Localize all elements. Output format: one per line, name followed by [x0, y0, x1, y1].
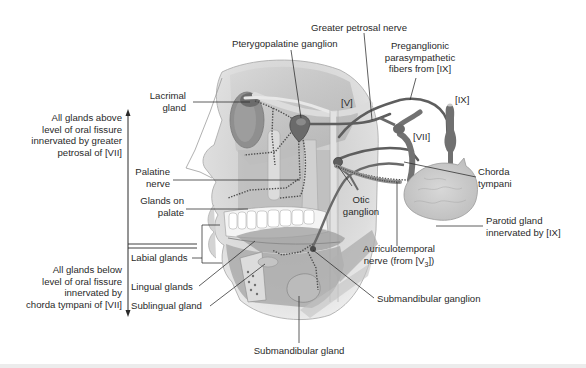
label-chorda-tympani: Chorda tympani	[478, 166, 512, 189]
glossopharyngeal-nerve	[444, 103, 456, 165]
label-submandibular-gland: Submandibular gland	[239, 345, 359, 357]
label-line: innervated by [IX]	[486, 227, 561, 239]
anatomy-figure: All glands above level of oral fissure i…	[0, 0, 586, 368]
label-line: palate	[118, 207, 184, 219]
facial-nerve	[380, 112, 420, 180]
label-line: nerve (from [V3])	[351, 255, 447, 267]
label-lacrimal-gland: Lacrimal gland	[130, 90, 186, 113]
label-text: nerve (from [V	[364, 255, 425, 266]
annotation-line: All glands below	[4, 264, 122, 276]
label-parotid-gland: Parotid gland innervated by [IX]	[486, 215, 561, 238]
label-labial-glands: Labial glands	[131, 252, 188, 264]
label-greater-petrosal-nerve: Greater petrosal nerve	[311, 22, 407, 34]
label-pterygopalatine-ganglion: Pterygopalatine ganglion	[232, 38, 338, 50]
label-line: fibers from [IX]	[375, 63, 465, 75]
label-lingual-glands: Lingual glands	[131, 281, 193, 293]
label-otic-ganglion: Otic ganglion	[336, 194, 386, 217]
annotation-line: innervated by	[4, 287, 122, 299]
label-line: Otic	[336, 194, 386, 206]
label-line: gland	[130, 102, 186, 114]
label-line: Lacrimal	[130, 90, 186, 102]
label-preganglionic-fibers: Preganglionic parasympathetic fibers fro…	[375, 40, 465, 75]
label-cn-ix: [IX]	[455, 94, 469, 106]
arrow-down-icon	[126, 310, 131, 317]
label-palatine-nerve: Palatine nerve	[110, 166, 170, 189]
label-line: ganglion	[336, 206, 386, 218]
annotation-line: All glands above	[14, 112, 122, 124]
glands-above-annotation: All glands above level of oral fissure i…	[14, 112, 122, 158]
label-glands-on-palate: Glands on palate	[118, 195, 184, 218]
label-cn-v: [V]	[341, 97, 353, 109]
annotation-line: innervated by greater	[14, 135, 122, 147]
label-line: tympani	[478, 178, 512, 190]
label-text: ])	[428, 255, 434, 266]
label-line: Chorda	[478, 166, 512, 178]
annotation-line: level of oral fissure	[14, 124, 122, 136]
label-line: Glands on	[118, 195, 184, 207]
annotation-line: petrosal of [VII]	[14, 147, 122, 159]
label-line: Auriculotemporal	[351, 243, 447, 255]
annotation-line: chorda tympani of [VII]	[4, 299, 122, 311]
label-submandibular-ganglion: Submandibular ganglion	[377, 293, 480, 305]
label-sublingual-gland: Sublingual gland	[131, 300, 202, 312]
label-auriculotemporal-nerve: Auriculotemporal nerve (from [V3])	[351, 243, 447, 266]
label-cn-vii: [VII]	[413, 131, 430, 143]
label-line: nerve	[110, 178, 170, 190]
label-line: parasympathetic	[375, 52, 465, 64]
submandibular-ganglion-shape	[310, 246, 316, 252]
label-line: Parotid gland	[486, 215, 561, 227]
label-line: Preganglionic	[375, 40, 465, 52]
annotation-line: level of oral fissure	[4, 276, 122, 288]
glands-below-annotation: All glands below level of oral fissure i…	[4, 264, 122, 310]
bottom-border	[0, 364, 586, 368]
label-line: Palatine	[110, 166, 170, 178]
